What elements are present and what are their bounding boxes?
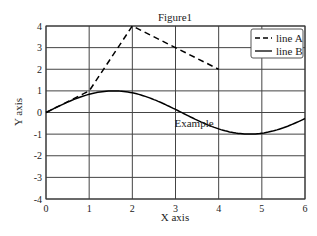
y-tick-label: -3 (34, 172, 42, 183)
y-tick-label: -1 (34, 129, 42, 140)
chart-title: Figure1 (158, 11, 192, 23)
x-tick-label: 6 (303, 203, 308, 214)
y-tick-label: 3 (37, 42, 42, 53)
x-tick-label: 0 (44, 203, 49, 214)
y-tick-label: 2 (37, 64, 42, 75)
y-tick-label: 4 (37, 21, 42, 32)
y-tick-label: -2 (34, 150, 42, 161)
legend: line A line B (251, 29, 303, 58)
annotation-example: Example (175, 117, 214, 129)
x-tick-label: 1 (87, 203, 92, 214)
x-axis-label: X axis (161, 211, 189, 223)
x-tick-label: 2 (130, 203, 135, 214)
y-axis-label: Y axis (12, 98, 24, 126)
y-tick-label: 1 (37, 85, 42, 96)
x-tick-label: 4 (216, 203, 221, 214)
y-tick-label: -4 (34, 194, 42, 205)
x-tick-label: 5 (259, 203, 264, 214)
chart-figure: 0123456-4-3-2-101234 Figure1 X axis Y ax… (0, 0, 317, 236)
y-tick-label: 0 (37, 107, 42, 118)
legend-label-line-a: line A (276, 32, 303, 44)
legend-label-line-b: line B (276, 45, 303, 57)
